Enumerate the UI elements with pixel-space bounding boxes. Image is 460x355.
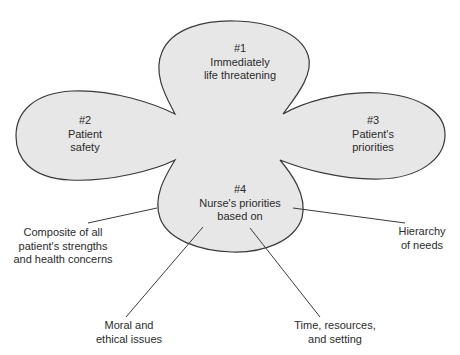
factor-time-line-2: and setting xyxy=(285,333,385,347)
lobe-4-number: #4 xyxy=(175,183,305,197)
lobe-3-line-1: Patient's xyxy=(333,128,413,142)
factor-composite-label: Composite of all patient's strengths and… xyxy=(8,226,118,267)
connector-hierarchy xyxy=(293,208,405,223)
factor-hierarchy-label: Hierarchy of needs xyxy=(392,225,452,252)
lobe-1-number: #1 xyxy=(175,42,305,56)
factor-composite-line-2: patient's strengths xyxy=(8,240,118,254)
factor-hierarchy-line-1: Hierarchy xyxy=(392,225,452,239)
factor-moral-line-1: Moral and xyxy=(84,319,174,333)
lobe-3-label: #3 Patient's priorities xyxy=(333,114,413,155)
connector-composite xyxy=(88,208,157,223)
lobe-2-label: #2 Patient safety xyxy=(45,114,125,155)
factor-composite-line-3: and health concerns xyxy=(8,253,118,267)
lobe-1-line-2: life threatening xyxy=(175,69,305,83)
lobe-4-line-2: based on xyxy=(175,210,305,224)
factor-moral-line-2: ethical issues xyxy=(84,333,174,347)
lobe-4-label: #4 Nurse's priorities based on xyxy=(175,183,305,224)
factor-composite-line-1: Composite of all xyxy=(8,226,118,240)
factor-moral-label: Moral and ethical issues xyxy=(84,319,174,346)
lobe-3-number: #3 xyxy=(333,114,413,128)
connector-time xyxy=(250,228,320,317)
lobe-2-line-1: Patient xyxy=(45,128,125,142)
lobe-2-number: #2 xyxy=(45,114,125,128)
lobe-4-line-1: Nurse's priorities xyxy=(175,197,305,211)
factor-time-line-1: Time, resources, xyxy=(285,319,385,333)
lobe-2-line-2: safety xyxy=(45,141,125,155)
lobe-3-line-2: priorities xyxy=(333,141,413,155)
lobe-1-label: #1 Immediately life threatening xyxy=(175,42,305,83)
connector-moral xyxy=(126,227,203,317)
lobe-1-line-1: Immediately xyxy=(175,56,305,70)
factor-hierarchy-line-2: of needs xyxy=(392,239,452,253)
factor-time-label: Time, resources, and setting xyxy=(285,319,385,346)
